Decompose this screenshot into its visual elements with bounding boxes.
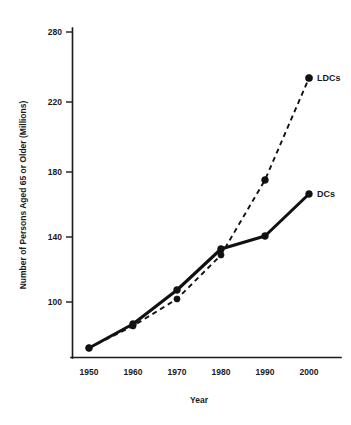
- data-point-ldcs-2000: [305, 74, 312, 81]
- x-tick-label-2000: 2000: [300, 367, 319, 377]
- data-point-dcs-1960: [130, 321, 137, 328]
- y-axis-title: Number of Persons Aged 65 or Older (Mill…: [18, 101, 28, 290]
- series-label-dcs: DCs: [317, 189, 335, 199]
- y-tick-label-220: 220: [48, 97, 62, 107]
- series-markers-ldcs: [86, 74, 313, 351]
- data-point-dcs-1980: [218, 246, 225, 253]
- y-tick-label-180: 180: [48, 167, 62, 177]
- y-tick-label-140: 140: [48, 232, 62, 242]
- x-tick-label-1980: 1980: [212, 367, 231, 377]
- y-tick-label-100: 100: [48, 297, 62, 307]
- data-point-dcs-1970: [174, 287, 181, 294]
- x-tick-label-1950: 1950: [80, 367, 99, 377]
- data-point-ldcs-1990: [262, 177, 269, 184]
- data-point-dcs-1990: [262, 233, 269, 240]
- x-axis-title: Year: [190, 395, 209, 405]
- series-line-dcs: [89, 194, 309, 348]
- series-label-ldcs: LDCs: [317, 73, 341, 83]
- chart-figure: 280 220 180 140 100 1950 1960 1970 1980 …: [0, 0, 351, 425]
- x-tick-label-1990: 1990: [256, 367, 275, 377]
- y-tick-label-280: 280: [48, 27, 62, 37]
- data-point-ldcs-1980: [218, 252, 224, 258]
- line-chart-canvas: 280 220 180 140 100 1950 1960 1970 1980 …: [0, 0, 351, 425]
- x-tick-label-1970: 1970: [168, 367, 187, 377]
- data-point-dcs-1950: [86, 345, 93, 352]
- data-point-dcs-2000: [306, 191, 313, 198]
- data-point-ldcs-1970: [174, 296, 180, 302]
- series-line-ldcs: [89, 78, 309, 348]
- x-tick-label-1960: 1960: [124, 367, 143, 377]
